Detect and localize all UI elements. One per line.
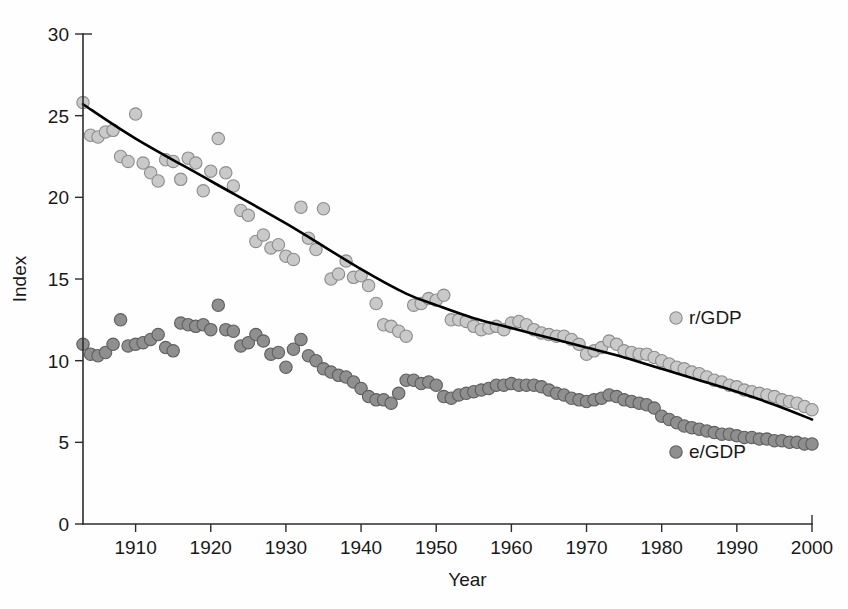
y-axis-tick-label: 0 (58, 514, 69, 535)
data-point-e-gdp (295, 333, 307, 345)
legend-label-e-gdp: e/GDP (689, 441, 746, 462)
x-axis-tick-label: 1950 (415, 537, 457, 558)
data-point-r-gdp (400, 330, 412, 342)
data-point-r-gdp (197, 185, 209, 197)
chart-container: 0510152025301910192019301940195019601970… (0, 0, 848, 609)
data-point-e-gdp (152, 328, 164, 340)
data-point-r-gdp (257, 229, 269, 241)
data-point-e-gdp (392, 387, 404, 399)
y-axis-tick-label: 25 (48, 106, 69, 127)
data-point-r-gdp (220, 167, 232, 179)
data-point-e-gdp (272, 346, 284, 358)
x-axis-title: Year (448, 569, 487, 590)
data-point-e-gdp (107, 338, 119, 350)
series-r-gdp-points (77, 96, 818, 415)
data-point-r-gdp (806, 403, 818, 415)
data-point-r-gdp (122, 155, 134, 167)
x-axis-tick-label: 1960 (490, 537, 532, 558)
data-point-r-gdp (129, 108, 141, 120)
y-axis-title: Index (9, 255, 30, 302)
data-point-e-gdp (806, 438, 818, 450)
x-axis-tick-label: 1910 (114, 537, 156, 558)
data-point-r-gdp (205, 165, 217, 177)
data-point-e-gdp (257, 335, 269, 347)
data-point-e-gdp (227, 325, 239, 337)
y-axis-tick-label: 20 (48, 187, 69, 208)
y-axis-tick-label: 5 (58, 432, 69, 453)
data-point-r-gdp (438, 289, 450, 301)
legend-marker-r-gdp (670, 312, 682, 324)
data-point-e-gdp (430, 379, 442, 391)
data-point-e-gdp (280, 361, 292, 373)
y-axis-tick-label: 30 (48, 24, 69, 45)
data-point-e-gdp (205, 323, 217, 335)
data-point-r-gdp (272, 239, 284, 251)
data-point-r-gdp (212, 132, 224, 144)
x-axis-tick-label: 2000 (791, 537, 833, 558)
scatter-plot: 0510152025301910192019301940195019601970… (0, 0, 848, 609)
data-point-r-gdp (152, 175, 164, 187)
data-point-r-gdp (287, 253, 299, 265)
data-point-r-gdp (317, 203, 329, 215)
legend-marker-e-gdp (670, 446, 682, 458)
data-point-e-gdp (114, 314, 126, 326)
x-axis-tick-label: 1930 (265, 537, 307, 558)
y-axis-tick-label: 10 (48, 351, 69, 372)
x-axis-tick-label: 1990 (716, 537, 758, 558)
y-axis-tick-label: 15 (48, 269, 69, 290)
data-point-e-gdp (167, 345, 179, 357)
x-axis-tick-label: 1980 (641, 537, 683, 558)
data-point-r-gdp (190, 157, 202, 169)
x-axis-tick-label: 1920 (190, 537, 232, 558)
data-point-r-gdp (175, 173, 187, 185)
data-point-r-gdp (362, 279, 374, 291)
data-point-r-gdp (370, 297, 382, 309)
x-axis-tick-label: 1940 (340, 537, 382, 558)
data-point-r-gdp (332, 268, 344, 280)
legend-label-r-gdp: r/GDP (689, 307, 742, 328)
data-point-e-gdp (212, 299, 224, 311)
data-point-r-gdp (242, 209, 254, 221)
data-point-r-gdp (295, 201, 307, 213)
x-axis-tick-label: 1970 (565, 537, 607, 558)
